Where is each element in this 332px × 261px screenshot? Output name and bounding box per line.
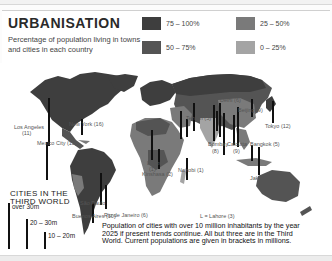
scale-bar (44, 232, 46, 249)
legend-label: 75 – 100% (166, 20, 199, 27)
city-bar-los-angeles (46, 142, 48, 180)
legend-item-0-25: 0 – 25% (236, 41, 286, 54)
city-label-delhi: Delhi (6) (220, 97, 241, 103)
city-label-sao-paulo: São Paulo (80, 200, 105, 206)
city-label-bombay: Bombay (208, 141, 228, 147)
legend-label: 50 – 75% (166, 44, 196, 51)
city-label-bombay-pop: (8) (212, 148, 219, 154)
map-subtitle: Percentage of population living in towns… (8, 35, 148, 55)
city-bar-bombay (213, 105, 215, 141)
city-label-calcutta: Calcutta (227, 141, 247, 147)
city-label-tokyo: Tokyo (12) (265, 123, 291, 129)
city-label-bangkok: Bangkok (5) (250, 141, 280, 147)
legend-swatch (142, 17, 161, 30)
map-caption: Population of cities with over 10 millio… (102, 222, 312, 245)
scale-item-10-20m: 10 – 20m (44, 232, 75, 249)
city-label-beijing: Beijing (9) (238, 107, 263, 113)
city-bar-jakarta (258, 147, 260, 175)
city-bar-cairo (180, 111, 182, 139)
europe (140, 80, 176, 106)
map-header: URBANISATION Percentage of population li… (2, 10, 330, 64)
city-label-calcutta-pop: (9) (233, 148, 240, 154)
city-label-mexico-city: Mexico City (15) (37, 140, 77, 146)
city-bar-mexico-city (48, 98, 50, 146)
legend-item-75-100: 75 – 100% (142, 17, 199, 30)
city-bar-tehran (186, 119, 188, 137)
legend-label: 0 – 25% (260, 44, 286, 51)
scale-bar (26, 219, 28, 249)
scale-label: over 30m (12, 203, 39, 210)
new-zealand (300, 206, 312, 216)
legend-item-25-50: 25 – 50% (236, 17, 290, 30)
city-label-kinshasa: Kinshasa (2) (142, 171, 173, 177)
top-border (0, 0, 332, 5)
city-bar-lagos (151, 130, 153, 160)
city-label-jakarta: Jakarta (7) (250, 175, 276, 181)
legend-swatch (142, 41, 161, 54)
scale-bar (8, 203, 10, 249)
legend-swatch (236, 41, 255, 54)
scale-label: 10 – 20m (48, 232, 75, 239)
city-label-los-angeles-pop: (11) (22, 130, 31, 136)
city-label-tehran: Tehran (5) (186, 115, 211, 121)
map-title: URBANISATION (8, 15, 120, 31)
city-bar-kinshasa (158, 149, 160, 169)
legend-item-50-75: 50 – 75% (142, 41, 196, 54)
city-bar-delhi (219, 103, 221, 137)
city-bar-bangkok (251, 145, 253, 161)
city-label-new-york: New York (16) (69, 121, 104, 127)
city-label-nairobi: Nairobi (1) (178, 167, 204, 173)
city-label-buenos-aires: Buenos Aires (10) (72, 213, 116, 219)
lahore-note: L = Lahore (3) (200, 213, 235, 219)
scale-label: 20 – 30m (30, 219, 57, 226)
indonesia (236, 158, 272, 166)
city-bar-lahore (216, 111, 218, 131)
city-bar-tokyo (272, 101, 274, 123)
legend-label: 25 – 50% (260, 20, 290, 27)
legend-swatch (236, 17, 255, 30)
bottom-border (0, 255, 332, 261)
city-bar-dhaka (223, 113, 225, 155)
